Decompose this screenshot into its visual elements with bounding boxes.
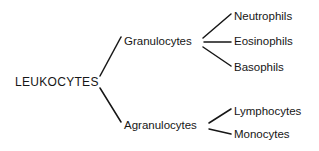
node-agranulocytes: Agranulocytes (124, 120, 197, 132)
node-granulocytes: Granulocytes (124, 36, 192, 48)
node-lymphocytes: Lymphocytes (234, 106, 301, 118)
root-to-granulocytes (100, 37, 121, 76)
agranulocytes-to-lymphocytes (209, 109, 231, 123)
node-monocytes: Monocytes (234, 129, 290, 141)
granulocytes-to-basophils (203, 47, 231, 66)
node-eosinophils: Eosinophils (234, 36, 293, 48)
node-basophils: Basophils (234, 62, 284, 74)
node-leukocytes: LEUKOCYTES (15, 76, 99, 88)
root-to-agranulocytes (100, 88, 121, 122)
agranulocytes-to-monocytes (209, 129, 231, 134)
leukocyte-classification-diagram: LEUKOCYTES Granulocytes Neutrophils Eosi… (0, 0, 319, 151)
granulocytes-to-neutrophils (203, 14, 231, 38)
node-neutrophils: Neutrophils (234, 11, 292, 23)
